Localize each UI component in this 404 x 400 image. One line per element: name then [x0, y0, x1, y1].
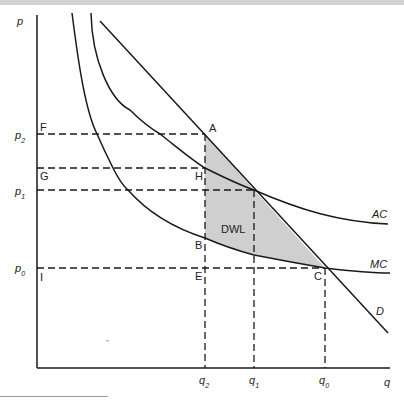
price-label-p2: p2: [14, 129, 25, 144]
quantity-label-q1: q1: [249, 374, 259, 389]
point-label-i: I: [40, 271, 43, 283]
price-label-p0: p0: [14, 262, 25, 277]
demand-curve-label: D: [376, 305, 384, 317]
ac-curve-label: AC: [371, 208, 387, 220]
quantity-label-q2: q2: [199, 374, 209, 389]
demand-curve: [100, 21, 388, 333]
point-label-c: C: [314, 270, 322, 282]
x-axis-label: q: [384, 376, 391, 388]
price-label-p1: p1: [14, 185, 25, 200]
point-label-f: F: [40, 121, 47, 133]
artifact-mark: [106, 340, 109, 342]
point-label-e: E: [195, 270, 202, 282]
point-label-g: G: [40, 170, 49, 182]
point-label-b: B: [195, 239, 202, 251]
mc-curve-label: MC: [370, 258, 387, 270]
point-label-a: A: [209, 122, 217, 134]
quantity-label-q0: q0: [319, 374, 329, 389]
point-label-h: H: [195, 170, 203, 182]
dwl-label: DWL: [221, 223, 245, 235]
footnote-rule: [0, 396, 108, 397]
y-axis-label: p: [16, 15, 23, 27]
dwl-diagram: p q p2 p1 p0 q2 q1 q0 F G I A H B E C DW…: [0, 0, 404, 400]
